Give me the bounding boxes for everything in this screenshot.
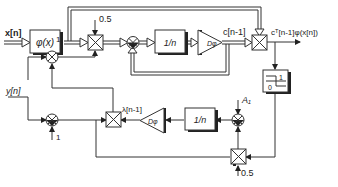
gain-top-label: 0.5 [99,14,112,24]
delay-block-top: Dφ [198,30,222,55]
sum-node-top [127,37,139,49]
svg-text:1: 1 [279,74,283,81]
multiplier-bottom-right [231,149,246,166]
sum-node-lower-left [46,114,58,126]
inv-n-block-bottom: 1/n [185,108,218,132]
a1-label: A₁ [241,95,251,105]
delay-block-bottom: Dφ [140,108,166,133]
c-prev-label: c[n-1] [223,27,246,37]
multiplier-bottom-left [106,112,121,127]
svg-text:1/n: 1/n [194,115,207,125]
svg-text:Dφ: Dφ [207,40,217,48]
block-diagram: φ(x) 0.5 1/n Dφ c[n-1] cᵀ[n-1]φ(x[n]) [0,0,338,187]
svg-text:0: 0 [268,84,272,91]
phi-label: φ(x) [36,37,54,48]
multiplier-top-left [88,35,103,50]
one-lower-label: 1 [56,133,61,142]
svg-text:1/n: 1/n [164,38,177,48]
one-upper-label: 1 [56,35,61,44]
sum-node-bottom-right [232,114,244,126]
svg-text:Dφ: Dφ [148,118,158,126]
sum-node-upper-left [46,51,58,63]
lambda-prev-label: λ[n-1] [122,105,142,114]
output-label: cᵀ[n-1]φ(x[n]) [271,28,318,37]
threshold-block: 1 0 [263,70,291,94]
input-y-label: y[n] [5,86,21,96]
multiplier-top-right [252,35,267,50]
gain-bottom-label: 0.5 [241,168,254,178]
inv-n-block-top: 1/n [155,30,188,55]
input-x-label: x[n] [5,28,22,38]
